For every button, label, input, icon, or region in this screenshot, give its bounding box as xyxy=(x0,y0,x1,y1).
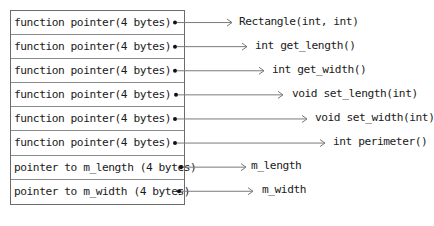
target-label: void set_width(int) xyxy=(315,111,434,124)
pointer-dot-icon xyxy=(173,45,177,49)
target-label: Rectangle(int, int) xyxy=(239,15,358,28)
target-label: int perimeter() xyxy=(333,135,427,148)
target-label: m_length xyxy=(251,159,301,172)
target-label: int get_width() xyxy=(272,63,366,76)
pointer-dot-icon xyxy=(173,117,177,121)
pointer-dot-icon xyxy=(179,165,183,169)
pointer-dot-icon xyxy=(173,69,177,73)
pointer-dot-icon xyxy=(177,189,181,193)
target-label: int get_length() xyxy=(255,39,356,52)
target-label: m_width xyxy=(262,183,306,196)
pointer-dot-icon xyxy=(174,93,178,97)
pointer-dot-icon xyxy=(173,21,177,25)
pointer-dot-icon xyxy=(173,141,177,145)
target-label: void set_length(int) xyxy=(292,87,418,100)
